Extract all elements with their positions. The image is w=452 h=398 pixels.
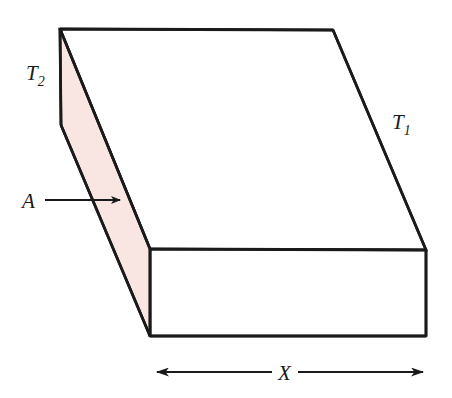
slab-edge-top-back (60, 29, 333, 30)
slab-edge-front-top (150, 249, 426, 250)
slab-solid (60, 29, 426, 336)
cold-face-temperature-label: T1 (392, 110, 411, 138)
slab-front-face (150, 249, 426, 336)
figure-root: A X T2 T1 (0, 0, 452, 398)
area-label: A (20, 189, 35, 213)
hot-face-temperature-label: T2 (26, 61, 45, 89)
cold-face-temperature-subscript: 1 (404, 123, 411, 138)
slab-edge-cross-section-left-vertical (60, 29, 61, 125)
thickness-dimension: X (157, 361, 423, 385)
hot-face-temperature-subscript: 2 (38, 74, 45, 89)
thickness-label: X (277, 361, 292, 385)
slab-diagram-svg: A X T2 T1 (0, 0, 452, 398)
